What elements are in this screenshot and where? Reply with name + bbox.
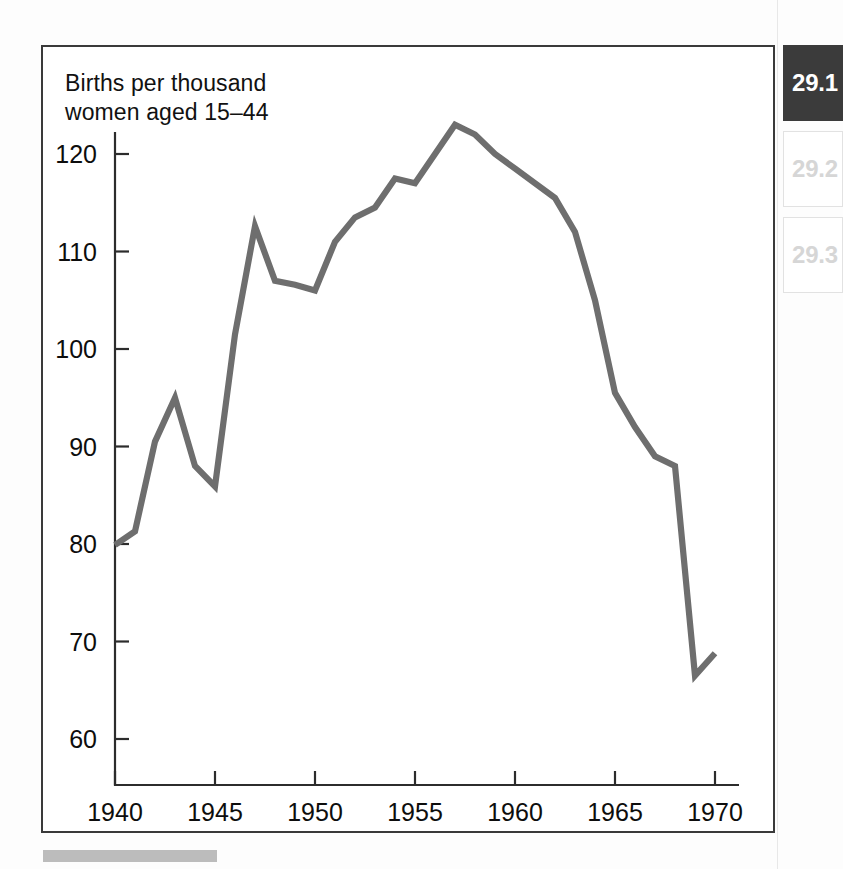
section-chip-29-3[interactable]: 29.3 <box>783 217 843 293</box>
rail-divider <box>777 0 778 869</box>
y-tick-label: 80 <box>69 530 97 558</box>
y-tick-label: 100 <box>55 335 97 363</box>
section-chip-29-1[interactable]: 29.1 <box>783 45 843 121</box>
line-chart-plot: 60708090100110120 1940194519501955196019… <box>43 47 777 835</box>
figure-frame: Births per thousand women aged 15–44 607… <box>41 45 775 833</box>
birth-rate-series-line <box>115 125 715 676</box>
section-chip-label: 29.3 <box>792 241 838 269</box>
x-tick-label: 1970 <box>687 798 743 826</box>
caption-placeholder-bar <box>43 850 217 862</box>
section-rail[interactable]: 29.1 29.2 29.3 <box>783 45 843 293</box>
y-tick-label-group: 60708090100110120 <box>55 140 97 753</box>
section-chip-label: 29.2 <box>792 155 838 183</box>
x-tick-label-group: 1940194519501955196019651970 <box>87 798 743 826</box>
y-tick-label: 60 <box>69 725 97 753</box>
y-tick-label: 120 <box>55 140 97 168</box>
section-chip-29-2[interactable]: 29.2 <box>783 131 843 207</box>
x-tick-label: 1945 <box>187 798 243 826</box>
x-tick-label: 1950 <box>287 798 343 826</box>
y-tick-label: 110 <box>57 238 97 266</box>
x-tick-label: 1940 <box>87 798 143 826</box>
section-chip-label: 29.1 <box>792 69 838 97</box>
x-tick-label: 1960 <box>487 798 543 826</box>
x-tick-label: 1965 <box>587 798 643 826</box>
x-tick-label: 1955 <box>387 798 443 826</box>
tick-mark-group <box>115 154 715 785</box>
y-tick-label: 70 <box>69 628 97 656</box>
axis-lines <box>115 132 739 785</box>
y-tick-label: 90 <box>69 433 97 461</box>
